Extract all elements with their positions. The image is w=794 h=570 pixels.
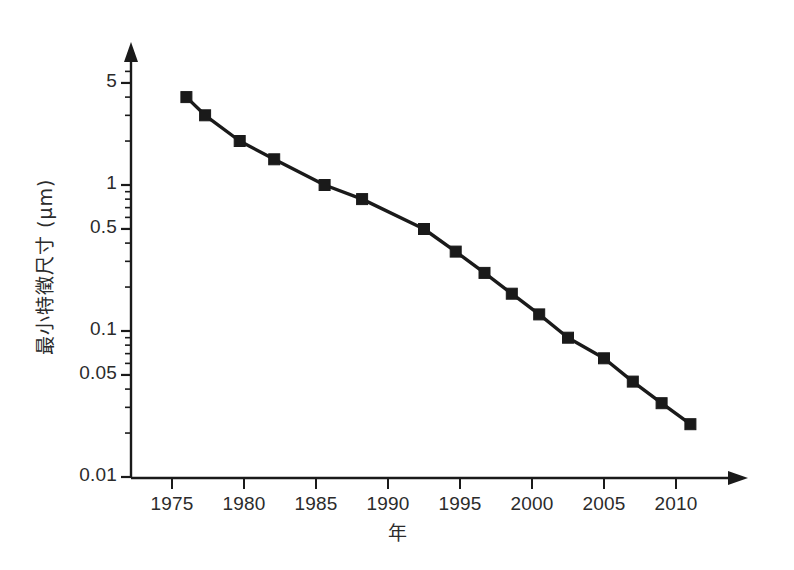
y-tick-label: 0.1 [90, 318, 117, 340]
x-tick-label: 2010 [651, 493, 701, 515]
y-tick-label: 0.5 [90, 216, 117, 238]
chart-figure: 510.50.10.050.01 19751980198519901995200… [0, 0, 794, 570]
data-point-marker [200, 110, 211, 121]
data-point-marker [534, 309, 545, 320]
y-tick-label: 5 [106, 70, 117, 92]
x-tick-label: 1980 [219, 493, 269, 515]
y-axis-label: 最小特徵尺寸 (μm) [30, 179, 57, 355]
x-tick-label: 1975 [147, 493, 197, 515]
y-tick-label: 0.05 [79, 362, 117, 384]
chart-plot-area [0, 0, 794, 570]
data-point-marker [319, 180, 330, 191]
data-point-marker [357, 194, 368, 205]
data-point-marker [269, 154, 280, 165]
y-tick-label: 1 [106, 172, 117, 194]
data-point-marker [479, 267, 490, 278]
data-point-marker [563, 332, 574, 343]
data-point-marker [599, 353, 610, 364]
x-tick-label: 1990 [363, 493, 413, 515]
x-axis-label: 年 [388, 518, 407, 545]
data-point-marker [656, 398, 667, 409]
data-point-marker [419, 224, 430, 235]
data-point-marker [506, 288, 517, 299]
data-point-marker [627, 376, 638, 387]
data-point-marker [450, 246, 461, 257]
x-tick-label: 1995 [435, 493, 485, 515]
y-tick-label: 0.01 [79, 464, 117, 486]
x-tick-label: 1985 [291, 493, 341, 515]
x-tick-label: 2005 [579, 493, 629, 515]
data-point-marker [234, 136, 245, 147]
data-point-marker [181, 92, 192, 103]
x-tick-label: 2000 [507, 493, 557, 515]
data-point-marker [685, 419, 696, 430]
